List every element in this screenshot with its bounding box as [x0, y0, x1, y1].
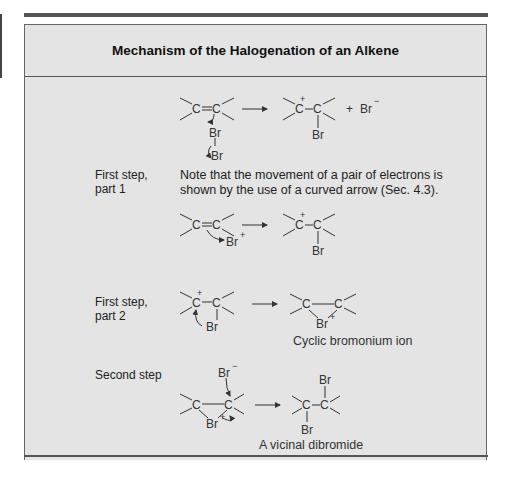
nucleophile-br: Br [218, 366, 230, 380]
atom-br: Br [312, 128, 324, 142]
bridging-br: Br [316, 317, 328, 331]
atom-c: C [295, 102, 304, 116]
charge-minus: − [374, 96, 379, 106]
step3-reactant-bromonium [180, 378, 244, 421]
charge-plus: + [220, 412, 225, 422]
charge-minus: − [232, 361, 237, 371]
atom-c: C [224, 398, 233, 412]
plus-sign: + [346, 102, 353, 116]
atom-c: C [313, 102, 322, 116]
step2-product-bromonium [290, 294, 356, 318]
charge-plus: + [330, 312, 335, 322]
charge-plus: + [197, 288, 202, 298]
atom-c: C [212, 218, 221, 232]
step3-product-dibromide [292, 386, 340, 422]
reaction-scheme: C C Br Br C + C Br + Br − C C Br + C + C… [0, 0, 513, 484]
atom-c: C [295, 218, 304, 232]
bromonium-reagent: Br [226, 235, 238, 249]
caption-bromonium: Cyclic bromonium ion [293, 334, 413, 348]
atom-br: Br [209, 126, 221, 140]
atom-c: C [212, 102, 221, 116]
atom-br: Br [211, 149, 223, 163]
atom-c: C [192, 102, 201, 116]
atom-c: C [192, 218, 201, 232]
overview-reactant-alkene [180, 98, 234, 158]
atom-br-lone-pairs: Br [206, 320, 218, 334]
overview-product-carbocation [283, 98, 335, 128]
atom-br: Br [312, 244, 324, 258]
atom-c: C [320, 398, 329, 412]
atom-c: C [192, 296, 201, 310]
atom-c: C [302, 398, 311, 412]
atom-c: C [334, 297, 343, 311]
step1-product-carbocation [283, 214, 335, 244]
charge-plus: + [300, 210, 305, 220]
charge-plus: + [300, 94, 305, 104]
atom-br: Br [319, 373, 331, 387]
atom-c: C [302, 297, 311, 311]
atom-br: Br [301, 423, 313, 437]
charge-plus: + [240, 230, 245, 240]
atom-c: C [212, 296, 221, 310]
caption-dibromide: A vicinal dibromide [259, 438, 363, 452]
bridging-br: Br [206, 417, 218, 431]
atom-c: C [313, 218, 322, 232]
bromide-ion: Br [360, 102, 372, 116]
atom-c: C [192, 398, 201, 412]
